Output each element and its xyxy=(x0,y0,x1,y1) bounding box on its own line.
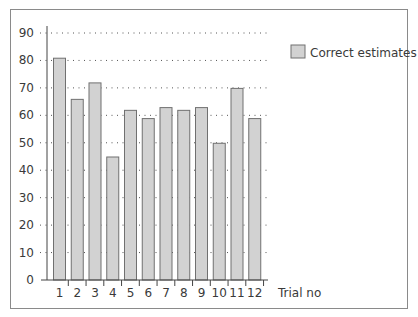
x-tick-label: 12 xyxy=(247,286,262,300)
y-tick-label: 80 xyxy=(19,53,34,67)
bar xyxy=(89,83,101,280)
bar xyxy=(54,58,66,280)
x-tick-label: 10 xyxy=(212,286,227,300)
legend-swatch xyxy=(291,45,305,58)
y-tick-label: 40 xyxy=(19,163,34,177)
x-tick-label: 6 xyxy=(144,286,152,300)
bar xyxy=(160,108,172,280)
x-tick-label: 9 xyxy=(198,286,206,300)
x-axis-ticks: 123456789101112 xyxy=(56,280,264,300)
bar xyxy=(125,110,137,280)
y-tick-label: 20 xyxy=(19,218,34,232)
bar xyxy=(213,143,225,280)
x-tick-label: 11 xyxy=(229,286,244,300)
bar xyxy=(71,99,83,280)
y-tick-label: 30 xyxy=(19,191,34,205)
y-tick-label: 50 xyxy=(19,136,34,150)
bar xyxy=(249,119,261,280)
y-tick-label: 10 xyxy=(19,246,34,260)
y-tick-label: 70 xyxy=(19,81,34,95)
x-axis-label: Trial no xyxy=(277,286,321,300)
y-tick-label: 90 xyxy=(19,26,34,40)
bar xyxy=(231,88,243,280)
bar xyxy=(178,110,190,280)
x-tick-label: 3 xyxy=(91,286,99,300)
bar xyxy=(142,119,154,280)
bar xyxy=(107,157,119,280)
x-tick-label: 2 xyxy=(73,286,81,300)
bars xyxy=(54,58,261,280)
y-axis-ticks: 0102030405060708090 xyxy=(19,26,34,287)
x-tick-label: 5 xyxy=(127,286,135,300)
y-tick-label: 60 xyxy=(19,108,34,122)
x-tick-label: 8 xyxy=(180,286,188,300)
bar-chart: 0102030405060708090 123456789101112 Tria… xyxy=(0,0,418,317)
x-tick-label: 1 xyxy=(56,286,64,300)
y-tick-label: 0 xyxy=(26,273,34,287)
bar xyxy=(196,108,208,280)
x-tick-label: 4 xyxy=(109,286,117,300)
legend-label: Correct estimates xyxy=(310,46,417,60)
x-tick-label: 7 xyxy=(162,286,170,300)
